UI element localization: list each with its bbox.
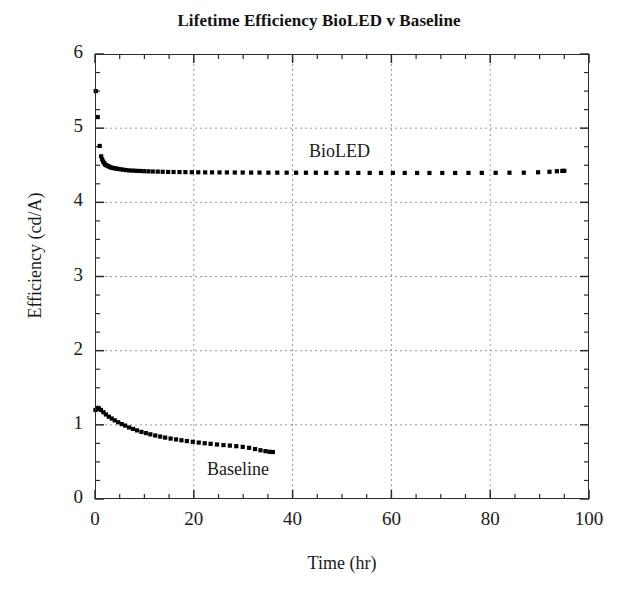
y-tick-label: 2 <box>43 338 83 360</box>
series-label-baseline: Baseline <box>207 459 269 480</box>
y-tick-label: 4 <box>43 189 83 211</box>
y-tick-label: 6 <box>43 41 83 63</box>
y-tick-label: 0 <box>43 486 83 508</box>
x-tick-label: 40 <box>263 508 323 530</box>
x-tick-label: 100 <box>559 508 619 530</box>
x-tick-label: 20 <box>164 508 224 530</box>
y-tick-label: 5 <box>43 115 83 137</box>
series-label-bioled: BioLED <box>309 141 370 162</box>
x-tick-label: 0 <box>65 508 125 530</box>
y-axis-title: Efficiency (cd/A) <box>25 146 46 366</box>
y-tick-label: 3 <box>43 264 83 286</box>
x-tick-label: 60 <box>361 508 421 530</box>
y-tick-label: 1 <box>43 412 83 434</box>
chart-figure: Lifetime Efficiency BioLED v Baseline 65… <box>0 0 638 595</box>
plot-frame <box>95 54 589 499</box>
x-axis-title: Time (hr) <box>95 553 589 574</box>
x-tick-label: 80 <box>460 508 520 530</box>
